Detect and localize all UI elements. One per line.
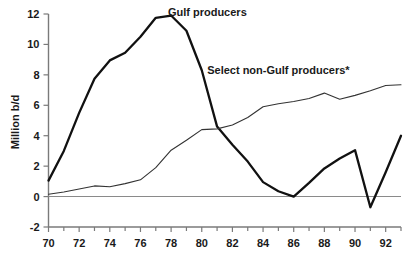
y-tick-label: 6 bbox=[33, 99, 39, 111]
x-tick-label: 92 bbox=[380, 237, 392, 249]
x-tick-label: 84 bbox=[257, 237, 270, 249]
x-tick-label: 82 bbox=[226, 237, 238, 249]
axis-lines bbox=[49, 14, 402, 227]
x-tick-label: 80 bbox=[196, 237, 208, 249]
x-tick-label: 90 bbox=[349, 237, 361, 249]
y-tick-label: 8 bbox=[33, 69, 39, 81]
series-line-0 bbox=[49, 16, 402, 208]
x-tick-labels: 707274767880828486889092 bbox=[42, 237, 391, 249]
series-lines bbox=[49, 16, 402, 208]
y-tick-labels: 121086420-2 bbox=[27, 8, 40, 233]
series-line-1 bbox=[49, 85, 402, 195]
y-tick-label: 0 bbox=[33, 191, 39, 203]
y-axis-title: Million b/d bbox=[9, 95, 21, 149]
x-tick-label: 78 bbox=[165, 237, 177, 249]
x-tick-label: 86 bbox=[288, 237, 300, 249]
axis-ticks bbox=[44, 14, 402, 232]
series-annotations: Gulf producersSelect non-Gulf producers* bbox=[168, 6, 350, 76]
x-tick-label: 74 bbox=[104, 237, 117, 249]
x-tick-label: 88 bbox=[318, 237, 330, 249]
y-tick-label: 10 bbox=[27, 38, 39, 50]
series-label-0: Gulf producers bbox=[168, 6, 247, 18]
y-tick-label: 4 bbox=[33, 130, 40, 142]
y-tick-label: 12 bbox=[27, 8, 39, 20]
chart-container: Million b/d 121086420-2 7072747678808284… bbox=[0, 0, 411, 261]
x-tick-label: 76 bbox=[134, 237, 146, 249]
line-chart: Million b/d 121086420-2 7072747678808284… bbox=[0, 0, 411, 261]
y-axis-title-group: Million b/d bbox=[9, 95, 21, 149]
y-tick-label: -2 bbox=[30, 221, 40, 233]
series-label-1: Select non-Gulf producers* bbox=[207, 64, 350, 76]
x-tick-label: 72 bbox=[73, 237, 85, 249]
x-tick-label: 70 bbox=[42, 237, 54, 249]
y-tick-label: 2 bbox=[33, 160, 39, 172]
